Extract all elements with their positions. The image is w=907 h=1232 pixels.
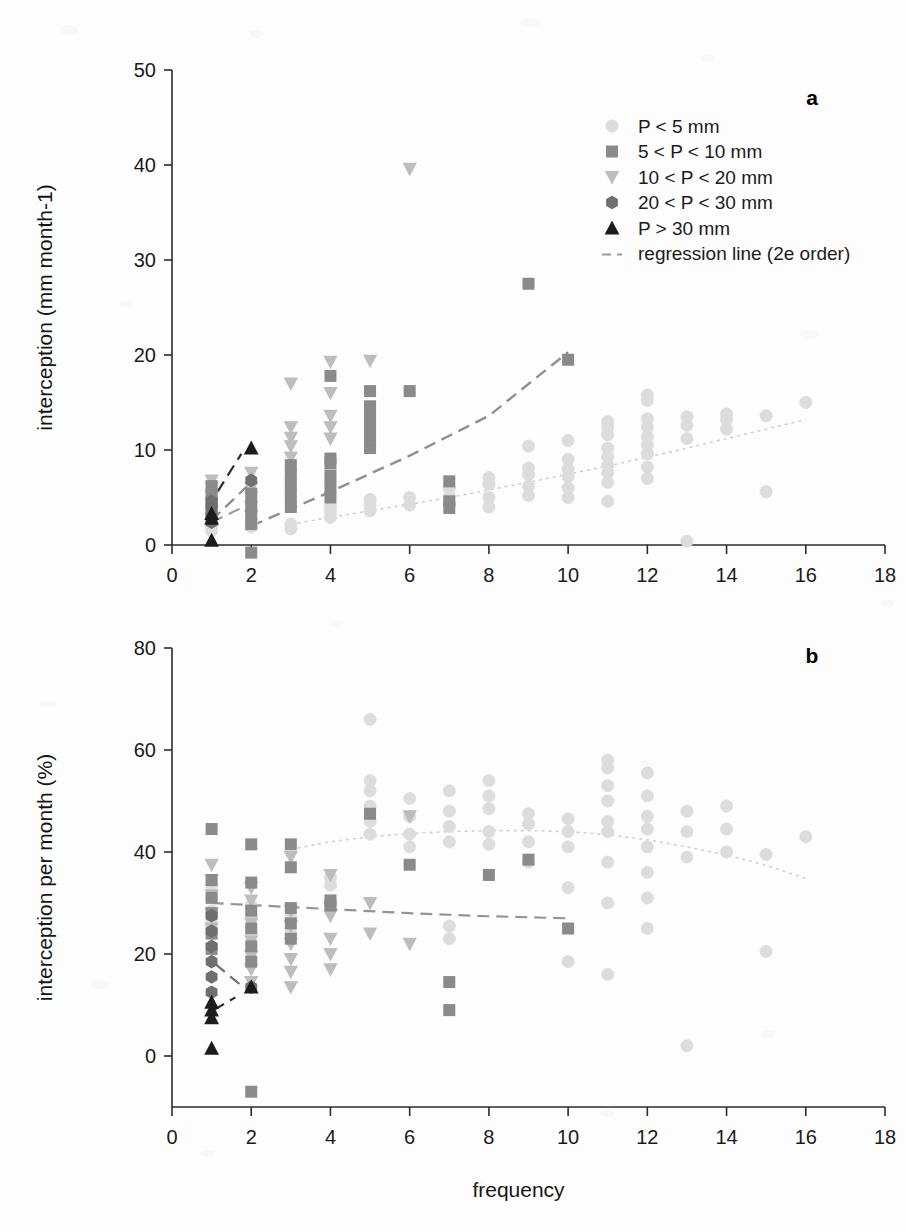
- x-tick-label-a: 12: [636, 564, 658, 586]
- data-point-circle: [681, 411, 693, 423]
- data-point-circle: [364, 713, 376, 725]
- data-point-square: [443, 495, 455, 507]
- data-point-square: [245, 940, 257, 952]
- data-point-square: [285, 459, 297, 471]
- data-point-circle: [483, 491, 495, 503]
- data-point-circle: [760, 486, 772, 498]
- data-point-square: [324, 492, 336, 504]
- data-point-circle: [403, 491, 415, 503]
- data-point-triangle-up: [244, 441, 259, 455]
- series-circle-b: [205, 713, 812, 1052]
- data-point-square: [245, 838, 257, 850]
- data-point-square: [523, 854, 535, 866]
- data-point-circle: [720, 846, 732, 858]
- data-point-square: [285, 501, 297, 513]
- data-point-circle: [641, 389, 653, 401]
- x-tick-label-a: 2: [246, 564, 257, 586]
- data-point-square: [245, 956, 257, 968]
- legend-label-4: P > 30 mm: [638, 218, 730, 239]
- data-point-circle: [602, 442, 614, 454]
- data-point-square: [364, 808, 376, 820]
- data-point-circle: [364, 828, 376, 840]
- data-point-square: [562, 354, 574, 366]
- data-point-circle: [720, 800, 732, 812]
- x-tick-label-a: 10: [557, 564, 579, 586]
- data-point-circle: [562, 825, 574, 837]
- data-point-circle: [602, 897, 614, 909]
- data-point-square: [404, 385, 416, 397]
- legend-marker-circle: [606, 120, 618, 132]
- x-tick-label-b: 18: [874, 1126, 896, 1148]
- data-point-circle: [562, 813, 574, 825]
- data-point-triangle-down: [323, 387, 337, 400]
- x-tick-label-a: 16: [795, 564, 817, 586]
- data-point-triangle-down: [363, 928, 377, 941]
- data-point-circle: [681, 535, 693, 547]
- data-point-circle: [641, 841, 653, 853]
- data-point-triangle-down: [323, 410, 337, 423]
- data-point-circle: [641, 823, 653, 835]
- panel-letter-b: b: [806, 644, 819, 667]
- data-point-circle: [641, 866, 653, 878]
- data-point-square: [324, 481, 336, 493]
- data-point-triangle-down: [323, 948, 337, 961]
- data-point-circle: [522, 836, 534, 848]
- data-point-triangle-up: [204, 995, 219, 1009]
- data-point-square: [245, 547, 257, 559]
- panel-a: 01020304050024681012141618interception (…: [33, 59, 896, 586]
- x-tick-label-a: 0: [166, 564, 177, 586]
- y-axis-title-a: interception (mm month-1): [33, 184, 56, 430]
- data-point-circle: [522, 440, 534, 452]
- data-point-circle: [602, 795, 614, 807]
- data-point-circle: [562, 882, 574, 894]
- data-point-circle: [720, 408, 732, 420]
- data-point-circle: [641, 790, 653, 802]
- data-point-circle: [522, 462, 534, 474]
- data-point-square: [364, 385, 376, 397]
- data-point-square: [285, 479, 297, 491]
- data-point-circle: [522, 480, 534, 492]
- y-tick-label-a: 20: [134, 344, 156, 366]
- legend-label-0: P < 5 mm: [638, 116, 719, 137]
- x-tick-label-b: 2: [246, 1126, 257, 1148]
- figure-container: 01020304050024681012141618interception (…: [0, 0, 907, 1232]
- data-point-square: [206, 480, 218, 492]
- data-point-circle: [602, 815, 614, 827]
- data-point-circle: [681, 432, 693, 444]
- data-point-circle: [760, 410, 772, 422]
- data-point-square: [245, 499, 257, 511]
- x-tick-label-b: 6: [404, 1126, 415, 1148]
- data-point-circle: [562, 482, 574, 494]
- data-point-circle: [562, 434, 574, 446]
- x-tick-label-b: 16: [795, 1126, 817, 1148]
- legend-marker-square: [606, 146, 618, 158]
- x-tick-label-b: 10: [557, 1126, 579, 1148]
- data-point-circle: [562, 955, 574, 967]
- data-point-circle: [483, 802, 495, 814]
- data-point-triangle-down: [363, 355, 377, 368]
- data-point-circle: [562, 453, 574, 465]
- data-point-circle: [720, 823, 732, 835]
- x-tick-label-a: 4: [325, 564, 336, 586]
- data-point-circle: [443, 836, 455, 848]
- x-tick-label-a: 14: [715, 564, 737, 586]
- data-point-circle: [483, 471, 495, 483]
- legend-label-1: 5 < P < 10 mm: [638, 141, 762, 162]
- data-point-circle: [403, 841, 415, 853]
- data-point-square: [285, 933, 297, 945]
- data-point-triangle-down: [204, 859, 218, 872]
- data-point-circle: [562, 841, 574, 853]
- data-point-triangle-down: [284, 966, 298, 979]
- legend-marker-triangle-up: [605, 220, 620, 234]
- series-square-a: [206, 278, 574, 559]
- y-tick-label-a: 50: [134, 59, 156, 81]
- data-point-circle: [443, 805, 455, 817]
- data-point-square: [562, 923, 574, 935]
- data-point-square: [245, 923, 257, 935]
- legend: P < 5 mm5 < P < 10 mm10 < P < 20 mm20 < …: [602, 116, 850, 265]
- y-tick-label-b: 60: [134, 739, 156, 761]
- data-point-circle: [285, 518, 297, 530]
- data-point-square: [364, 431, 376, 443]
- y-axis-title-b: interception per month (%): [33, 754, 56, 1001]
- data-point-square: [206, 823, 218, 835]
